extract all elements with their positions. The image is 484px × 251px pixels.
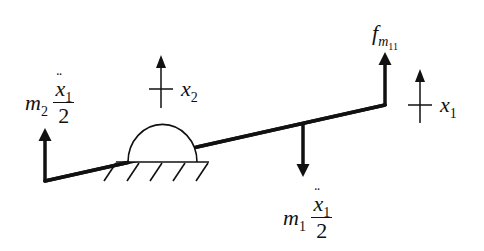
accel-subscript: 1 <box>65 90 72 105</box>
coordinate-symbol: x <box>440 92 450 117</box>
accel-subscript: 1 <box>323 205 330 220</box>
center-force-arrow-down <box>297 123 310 177</box>
center-force-label: m1 ¨x1 2 <box>283 195 332 244</box>
fraction: ¨x1 2 <box>311 193 332 242</box>
double-dot: ¨ <box>314 186 318 202</box>
mass-subscript: 1 <box>299 219 306 234</box>
numerator: ¨x1 <box>53 78 74 103</box>
force-subsubscript: 11 <box>388 41 398 52</box>
left-force-label: m2 ¨x1 2 <box>25 80 74 129</box>
right-force-arrow-up <box>379 52 392 106</box>
fraction: ¨x1 2 <box>53 78 74 127</box>
denominator: 2 <box>53 103 74 127</box>
x1-label: x1 <box>440 94 457 116</box>
mass-symbol: m <box>25 90 41 115</box>
left-force-arrow-up <box>39 128 52 181</box>
coordinate-subscript: 2 <box>191 90 198 105</box>
double-dot: ¨ <box>56 71 60 87</box>
coordinate-subscript: 1 <box>450 106 457 121</box>
right-force-label: fm11 <box>372 22 398 44</box>
mass-symbol: m <box>283 205 299 230</box>
denominator: 2 <box>311 218 332 242</box>
x2-label: x2 <box>181 78 198 100</box>
force-subscript: m <box>378 34 388 49</box>
numerator: ¨x1 <box>311 193 332 218</box>
x1-coordinate-marker <box>408 69 432 123</box>
coordinate-symbol: x <box>181 76 191 101</box>
pivot-support <box>116 124 209 162</box>
x2-coordinate-marker <box>149 55 173 108</box>
mass-subscript: 2 <box>41 104 48 119</box>
